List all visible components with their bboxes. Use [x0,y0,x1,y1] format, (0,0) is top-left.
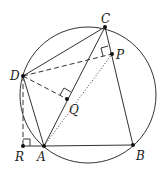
point-q [65,97,69,101]
label-d: D [9,69,20,83]
segment-dp [23,54,112,76]
circumcircle [20,27,156,163]
label-c: C [101,12,110,26]
label-p: P [115,48,125,62]
segment-dq [23,76,67,99]
right-angle-q [60,88,71,95]
point-b [131,143,135,147]
point-r [21,144,25,148]
segment-bc [105,27,133,145]
point-d [21,74,25,78]
label-b: B [135,149,145,163]
label-q: Q [69,103,79,117]
point-p [110,52,114,56]
segment-ab [44,145,133,146]
point-a [42,144,46,148]
label-a: A [36,150,46,164]
geometry-diagram: C P D Q R A B [0,0,165,169]
right-angle-p [101,46,108,56]
label-r: R [14,150,24,164]
